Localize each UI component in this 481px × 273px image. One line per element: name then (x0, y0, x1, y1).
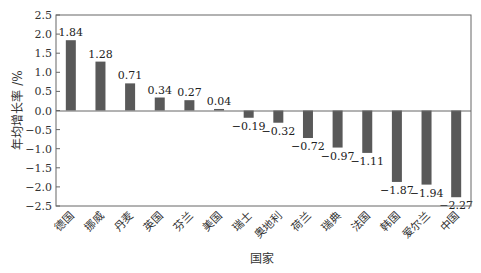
x-category-label: 丹麦 (111, 209, 136, 234)
x-category-label: 美国 (200, 209, 225, 234)
y-tick-label: 1.0 (35, 66, 53, 79)
value-label: −1.11 (350, 155, 384, 168)
value-label: 0.71 (118, 69, 143, 82)
y-axis-ticks: 2.52.01.51.00.50.0−0.5−1.0−1.5−2.0−2.5 (25, 9, 60, 213)
value-labels: 1.841.280.710.340.270.04−0.19−0.32−0.72−… (59, 26, 473, 212)
bar (66, 40, 76, 110)
y-tick-label: 1.5 (35, 47, 53, 60)
y-tick-label: −1.5 (25, 162, 52, 175)
y-tick-label: −1.0 (25, 143, 52, 156)
bar (451, 111, 461, 198)
y-tick-label: 0.0 (35, 105, 53, 118)
value-label: 1.84 (59, 26, 84, 39)
y-tick-label: −2.0 (25, 181, 52, 194)
value-label: −0.32 (261, 125, 295, 138)
bar (333, 111, 343, 148)
bar (362, 111, 372, 153)
value-label: 1.28 (88, 48, 113, 61)
bar-chart: 2.52.01.51.00.50.0−0.5−1.0−1.5−2.0−2.5 1… (0, 0, 481, 273)
x-category-label: 芬兰 (171, 209, 196, 234)
value-label: −1.94 (410, 187, 444, 200)
bar (392, 111, 402, 182)
x-category-label: 瑞典 (318, 208, 343, 233)
bar (273, 111, 283, 123)
bar (214, 109, 224, 111)
x-category-label: 中国 (438, 209, 463, 234)
bar (244, 111, 254, 118)
x-category-label: 瑞士 (229, 208, 254, 233)
y-tick-label: −0.5 (25, 124, 52, 137)
y-tick-label: 2.0 (35, 28, 53, 41)
bar (95, 62, 105, 111)
bars (66, 40, 461, 197)
x-category-label: 挪威 (81, 208, 106, 233)
y-tick-label: −2.5 (25, 200, 52, 213)
y-tick-label: 2.5 (35, 9, 53, 22)
x-category-label: 爱尔兰 (400, 209, 433, 242)
value-label: 0.27 (177, 86, 202, 99)
x-axis-title: 国家 (250, 251, 274, 266)
bar (125, 83, 135, 110)
bar (422, 111, 432, 185)
x-category-label: 德国 (51, 208, 76, 233)
y-tick-label: 0.5 (35, 85, 53, 98)
value-label: 0.04 (207, 95, 232, 108)
x-category-label: 荷兰 (289, 209, 314, 234)
x-axis-category-labels: 德国挪威丹麦英国芬兰美国瑞士奥地利荷兰瑞典法国韩国爱尔兰中国 (51, 208, 462, 241)
x-category-label: 韩国 (378, 208, 403, 233)
x-category-label: 奥地利 (251, 208, 284, 241)
bar (303, 111, 313, 139)
value-label: 0.34 (148, 84, 173, 97)
bar (155, 98, 165, 111)
bar (184, 100, 194, 110)
y-axis-title: 年均增长率 /% (10, 70, 25, 149)
x-category-label: 英国 (140, 208, 165, 233)
x-category-label: 法国 (348, 208, 373, 233)
